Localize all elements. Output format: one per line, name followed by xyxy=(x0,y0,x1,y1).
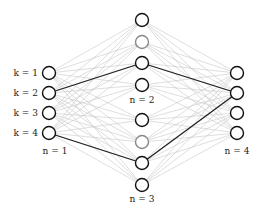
graph-node xyxy=(43,87,56,100)
edge xyxy=(49,120,142,133)
highlighted-edge xyxy=(142,93,237,163)
graph-node xyxy=(136,157,149,170)
edge xyxy=(142,120,237,133)
graph-node xyxy=(43,67,56,80)
edge xyxy=(49,42,142,133)
edge xyxy=(142,20,237,93)
layered-graph-diagram: k = 1k = 2k = 3k = 4n = 1n = 2n = 3n = 4 xyxy=(0,0,257,209)
graph-node xyxy=(136,79,149,92)
edge xyxy=(142,113,237,185)
graph-node xyxy=(43,127,56,140)
node-label: k = 1 xyxy=(14,68,38,78)
graph-node xyxy=(136,14,149,27)
column-label: n = 3 xyxy=(130,194,155,204)
graph-node xyxy=(231,67,244,80)
node-label: k = 3 xyxy=(14,108,39,118)
graph-node xyxy=(136,136,149,149)
edge xyxy=(142,73,237,185)
edge xyxy=(142,73,237,120)
graph-node xyxy=(231,87,244,100)
graph-node xyxy=(231,127,244,140)
graph-node xyxy=(231,107,244,120)
graph-node xyxy=(43,107,56,120)
graph-node xyxy=(136,36,149,49)
graph-node xyxy=(136,57,149,70)
edge xyxy=(142,113,237,163)
edge xyxy=(142,63,237,133)
node-label: k = 2 xyxy=(14,88,38,98)
graph-node xyxy=(136,114,149,127)
column-label: n = 4 xyxy=(225,146,250,156)
graph-node xyxy=(136,179,149,192)
edge xyxy=(49,20,142,93)
column-label: n = 2 xyxy=(130,95,155,105)
node-label: k = 4 xyxy=(14,128,39,138)
edge xyxy=(49,73,142,185)
edge xyxy=(142,42,237,133)
edge xyxy=(49,73,142,120)
edge xyxy=(49,63,142,133)
column-label: n = 1 xyxy=(43,146,68,156)
